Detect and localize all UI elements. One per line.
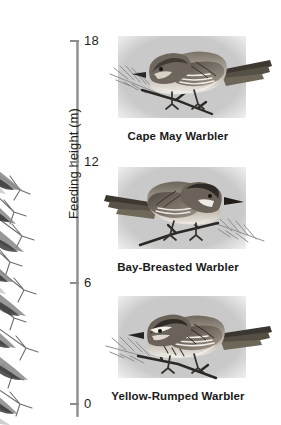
panel-caption: Cape May Warbler bbox=[78, 130, 278, 142]
y-axis-tick-label-12: 12 bbox=[84, 155, 99, 168]
y-axis-tick-6 bbox=[70, 282, 79, 284]
y-axis-tick-label-18: 18 bbox=[84, 34, 99, 47]
y-axis-tick-12 bbox=[70, 161, 79, 163]
panel-caption: Bay-Breasted Warbler bbox=[78, 261, 278, 273]
panel-background bbox=[118, 36, 246, 118]
warbler-feeding-height-figure: Feeding height (m) 18 12 6 0 bbox=[0, 0, 281, 425]
y-axis-tick-18 bbox=[70, 40, 79, 42]
y-axis-title: Feeding height (m) bbox=[66, 64, 81, 264]
panel-caption: Yellow-Rumped Warbler bbox=[78, 390, 278, 402]
y-axis-tick-0 bbox=[70, 403, 79, 405]
panel-background bbox=[118, 167, 246, 249]
y-axis: Feeding height (m) 18 12 6 0 bbox=[44, 28, 106, 418]
panel-background bbox=[118, 296, 246, 378]
y-axis-tick-label-6: 6 bbox=[84, 276, 91, 289]
